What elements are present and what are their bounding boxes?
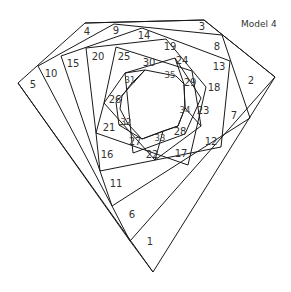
piece-label-1: 1: [147, 236, 153, 247]
piece-label-33: 33: [155, 133, 166, 143]
piece-label-17: 17: [175, 148, 188, 159]
piece-label-12: 12: [205, 136, 218, 147]
piece-label-22: 22: [146, 149, 159, 160]
piece-label-4: 4: [84, 26, 90, 37]
model-title: Model 4: [241, 19, 277, 29]
piece-label-27: 27: [129, 136, 142, 147]
piece-label-32: 32: [121, 117, 132, 127]
piece-label-9: 9: [113, 25, 119, 36]
piece-label-6: 6: [129, 209, 135, 220]
piece-label-16: 16: [101, 149, 114, 160]
piece-label-26: 26: [109, 94, 122, 105]
piece-label-2: 2: [248, 75, 254, 86]
piece-label-28: 28: [174, 126, 187, 137]
piece-label-34: 34: [180, 105, 191, 115]
piece-label-23: 23: [197, 105, 210, 116]
piece-label-25: 25: [118, 51, 131, 62]
piece-label-30: 30: [143, 57, 156, 68]
piece-label-3: 3: [199, 21, 205, 32]
piece-label-8: 8: [214, 41, 220, 52]
piece-label-18: 18: [208, 82, 221, 93]
piece-label-13: 13: [213, 61, 226, 72]
piece-label-15: 15: [67, 58, 80, 69]
piece-label-20: 20: [92, 51, 105, 62]
piece-label-21: 21: [103, 122, 116, 133]
piece-label-29: 29: [184, 77, 197, 88]
piece-label-11: 11: [110, 178, 123, 189]
piece-label-5: 5: [30, 79, 36, 90]
piece-label-31: 31: [125, 75, 136, 85]
piece-label-19: 19: [164, 41, 177, 52]
piece-label-24: 24: [176, 55, 189, 66]
piece-label-7: 7: [231, 110, 237, 121]
piece-label-35: 35: [165, 70, 176, 80]
iris-folding-pattern-diagram: 1234567891011121314151617181920212223242…: [0, 0, 291, 292]
piece-label-10: 10: [45, 68, 58, 79]
piece-label-14: 14: [138, 30, 151, 41]
